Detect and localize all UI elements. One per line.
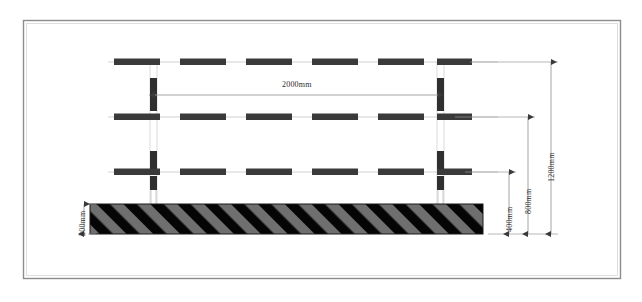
rail-dash — [312, 59, 358, 66]
rail-dash — [246, 59, 292, 66]
rail-dash — [312, 169, 358, 176]
rail-dash — [114, 169, 160, 176]
dimension-label-200mm: 200mm — [78, 211, 87, 236]
post-segment — [150, 151, 157, 169]
rail-dash — [114, 59, 160, 66]
dimension-label-400mm: 400mm — [505, 207, 514, 232]
dimension-label-800mm: 800mm — [524, 189, 533, 214]
rail-dash — [246, 114, 292, 121]
rail-dash — [114, 114, 160, 121]
post-segment — [437, 151, 444, 169]
foundation-hatch — [90, 204, 483, 234]
post-segment — [437, 176, 444, 190]
dimension-label-1200mm: 1200mm — [547, 152, 556, 182]
rail-dash — [180, 59, 226, 66]
rail-dash — [312, 114, 358, 121]
post-stems — [151, 190, 443, 205]
dimension-label-2000mm: 2000mm — [282, 80, 312, 89]
drawing-canvas: 2000mm 200mm 400mm 800mm 1200mm — [0, 0, 642, 302]
concrete-foundation-block — [90, 204, 483, 234]
post-segment — [150, 176, 157, 190]
technical-drawing-svg — [0, 0, 642, 302]
rail-dash — [378, 59, 424, 66]
rail-dash — [378, 114, 424, 121]
post-segment — [437, 78, 444, 111]
rail-dash — [180, 114, 226, 121]
rail-dash — [378, 169, 424, 176]
post-segment — [150, 78, 157, 111]
rail-dash — [437, 59, 472, 66]
rail-dash — [246, 169, 292, 176]
rail-dash — [180, 169, 226, 176]
